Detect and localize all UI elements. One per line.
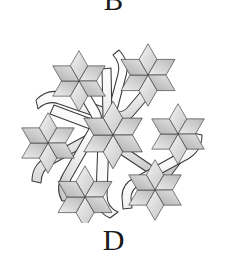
figure-label-top: B [0,0,227,15]
figure-label-bottom: D [0,225,227,255]
figure-container: B [0,0,227,265]
star-knot-pattern [17,33,210,223]
star-top-right [121,44,175,106]
star-left [22,113,75,174]
